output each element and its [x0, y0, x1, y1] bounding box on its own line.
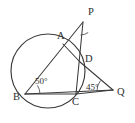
point-label-c: C — [72, 96, 79, 107]
angle-arc-b — [37, 85, 40, 94]
segment-a-to-d — [63, 44, 80, 62]
point-label-p: P — [88, 6, 94, 17]
segment-p-to-c — [76, 22, 83, 94]
angle-label-b: 50° — [35, 76, 48, 86]
point-label-d: D — [85, 53, 93, 64]
angle-label-q: 45° — [86, 82, 99, 92]
geometry-diagram: P A D Q C B 50° 45° — [0, 0, 135, 123]
segment-b-to-q — [25, 90, 113, 94]
segment-b-to-p — [25, 22, 83, 94]
geometry-canvas: P A D Q C B 50° 45° — [0, 0, 135, 123]
point-label-q: Q — [117, 86, 125, 97]
point-label-a: A — [57, 30, 65, 41]
point-label-b: B — [13, 91, 20, 102]
